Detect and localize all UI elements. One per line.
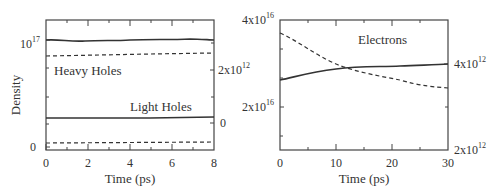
right-y-tick-top: 4x1016 xyxy=(242,11,274,27)
right-x-axis-title: Time (ps) xyxy=(339,171,389,186)
right-y-tick-mid: 2x1016 xyxy=(242,98,274,114)
right-right-y-tick-top: 4x1012 xyxy=(454,55,486,71)
left-y-tick-top: 1017 xyxy=(20,35,40,51)
svg-text:2: 2 xyxy=(85,156,91,170)
svg-text:6: 6 xyxy=(169,156,175,170)
right-right-y-tick-bottom: 2x1012 xyxy=(454,141,486,157)
left-y-axis-title: Density xyxy=(8,74,23,115)
svg-text:20: 20 xyxy=(386,156,398,170)
heavy-holes-label: Heavy Holes xyxy=(54,63,122,78)
electrons-solid-line xyxy=(280,64,448,80)
svg-text:0: 0 xyxy=(43,156,49,170)
left-right-y-tick-top: 2x1012 xyxy=(218,61,250,77)
svg-text:8: 8 xyxy=(211,156,217,170)
right-x-tick-labels: 0 10 20 30 xyxy=(277,156,454,170)
right-chart: Electrons 0 10 20 30 Time (ps) 4x1016 2x… xyxy=(242,11,486,186)
heavy-holes-dashed-line xyxy=(46,53,214,56)
light-holes-solid-line xyxy=(46,117,214,118)
left-chart: Heavy Holes Light Holes 0 2 4 6 8 Time (… xyxy=(8,20,250,186)
light-holes-dashed-line xyxy=(46,142,214,143)
left-right-y-tick-zero: 0 xyxy=(220,116,226,130)
left-x-tick-labels: 0 2 4 6 8 xyxy=(43,156,217,170)
light-holes-label: Light Holes xyxy=(130,99,192,114)
svg-text:0: 0 xyxy=(277,156,283,170)
left-x-axis-title: Time (ps) xyxy=(105,171,155,186)
svg-text:4: 4 xyxy=(127,156,133,170)
electrons-label: Electrons xyxy=(358,32,407,47)
figure: Heavy Holes Light Holes 0 2 4 6 8 Time (… xyxy=(0,0,499,195)
svg-text:10: 10 xyxy=(330,156,342,170)
svg-text:30: 30 xyxy=(442,156,454,170)
heavy-holes-solid-line xyxy=(46,39,214,41)
left-y-tick-zero: 0 xyxy=(30,140,36,154)
